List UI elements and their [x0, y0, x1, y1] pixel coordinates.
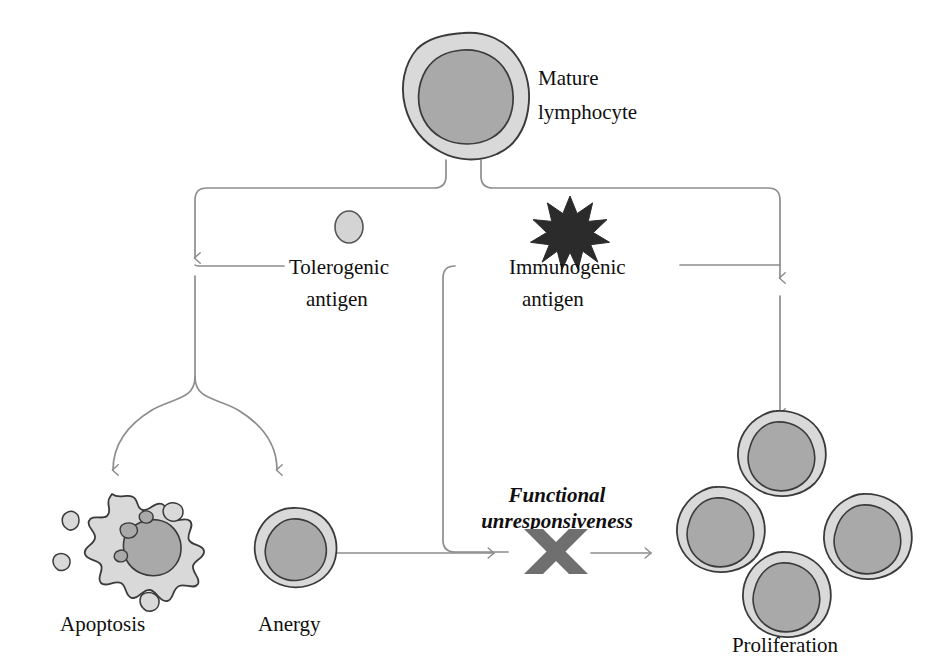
proliferating-cell-bottom: [743, 552, 831, 637]
mature-lymphocyte-label-line1: Mature: [538, 66, 599, 90]
anergic-cell: [255, 508, 337, 587]
immunogenic-antigen-label-line2: antigen: [522, 287, 584, 311]
lymphocyte-fate-diagram: Mature lymphocyte Tolerogenic antigen Im…: [0, 0, 945, 666]
apoptotic-cell: [53, 494, 204, 611]
edge-branch-to-apoptosis: [113, 377, 195, 470]
functional-unresponsiveness-label-line1: Functional: [508, 483, 606, 507]
connector-network: [113, 160, 780, 553]
edge-branch-to-anergy: [195, 377, 277, 470]
edge-lymphocyte-to-left-branch: [195, 160, 446, 258]
proliferating-cell-right: [824, 494, 912, 579]
tolerogenic-antigen-label-line1: Tolerogenic: [289, 255, 389, 279]
functional-unresponsiveness-label-line2: unresponsiveness: [481, 509, 633, 533]
immunogenic-antigen-label-line1: Immunogenic: [509, 255, 626, 279]
lymphocyte-nucleus: [419, 50, 514, 144]
x-block-icon: [524, 529, 588, 574]
proliferating-cell-top: [738, 411, 826, 496]
edge-tolerogenic-leader: [195, 265, 284, 266]
diagram-canvas: Mature lymphocyte Tolerogenic antigen Im…: [0, 0, 945, 666]
anergy-label: Anergy: [258, 612, 321, 636]
apoptotic-nucleus-fragment-b: [139, 511, 153, 523]
proliferation-label: Proliferation: [732, 633, 839, 657]
tolerogenic-antigen-icon: [335, 211, 363, 243]
apoptotic-body-lower-left: [53, 554, 70, 571]
apoptotic-body-lower-right: [140, 593, 159, 612]
anergic-nucleus: [265, 519, 326, 581]
mature-lymphocyte-cell: [403, 33, 529, 160]
proliferating-cell-left: [677, 487, 765, 572]
apoptotic-nucleus-fragment-c: [114, 550, 127, 562]
apoptotic-body-left: [62, 511, 79, 530]
tolerogenic-antigen-label-line2: antigen: [306, 287, 368, 311]
mature-lymphocyte-label-line2: lymphocyte: [538, 100, 637, 124]
apoptotic-nucleus-fragment-a: [120, 523, 137, 538]
apoptosis-label: Apoptosis: [60, 612, 145, 636]
apoptotic-body-upper-right: [163, 503, 183, 521]
